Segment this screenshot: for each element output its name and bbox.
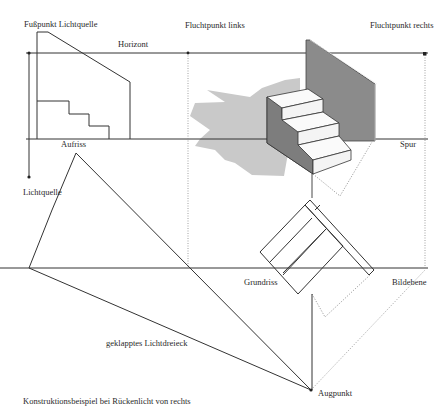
label-aufriss: Aufriss [61,139,86,149]
grundriss-step-3 [296,243,339,287]
lichtdreieck-apex-to-augpunkt [76,153,311,390]
label-grundriss: Grundriss [244,277,278,287]
aufriss-wall [37,32,130,139]
label-fluchtpunkt-links: Fluchtpunkt links [185,20,245,30]
grundriss-dotted-corner [312,275,370,317]
label-spur: Spur [400,139,416,149]
fusspunkt-marker [27,51,30,54]
grundriss-wall [305,200,374,275]
label-bildebene: Bildebene [392,277,426,287]
aufriss-stairs [37,101,109,139]
caption: Konstruktionsbeispiel bei Rückenlicht vo… [23,396,191,406]
label-horizont: Horizont [118,39,148,49]
label-geklapptes-lichtdreieck: geklapptes Lichtdreieck [106,338,187,348]
augpunkt-marker [309,388,312,391]
grundriss-step-b [270,218,312,262]
label-lichtquelle: Lichtquelle [23,187,62,197]
lichtquelle-marker [27,175,30,178]
label-fusspunkt-lichtquelle: Fußpunkt Lichtquelle [24,19,97,29]
fluchtpunkt-rechts-marker [423,52,427,56]
perspective-shadow-diagram [0,0,448,420]
lichtdreieck-left-edge [29,153,76,268]
label-augpunkt: Augpunkt [318,388,352,398]
grundriss-step-2 [273,218,316,262]
label-fluchtpunkt-rechts: Fluchtpunkt rechts [370,20,434,30]
augpunkt-dotted-right [311,270,425,390]
fluchtpunkt-links-marker [187,52,190,55]
